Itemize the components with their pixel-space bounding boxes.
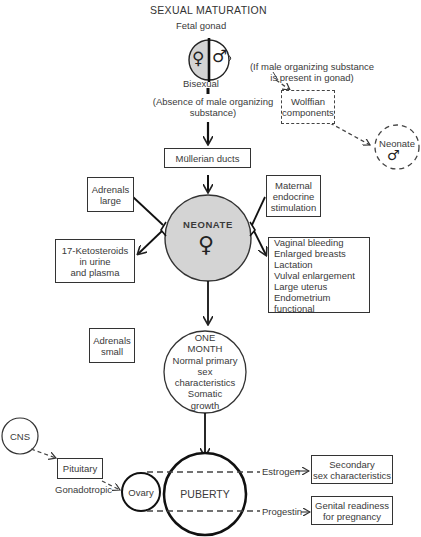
ketosteroids-box: 17-Ketosteroids in urine and plasma bbox=[55, 239, 135, 283]
male-symbol-icon: ♂ bbox=[212, 46, 227, 66]
ovary-label: Ovary bbox=[123, 487, 159, 498]
line-maternal bbox=[252, 197, 265, 225]
female-symbol-icon: ♀ bbox=[192, 48, 204, 68]
progestin-label: Progestin bbox=[262, 506, 302, 517]
puberty-label: PUBERTY bbox=[170, 489, 240, 500]
effect-item: Vulval enlargement bbox=[274, 270, 355, 281]
mullerian-ducts-box: Müllerian ducts bbox=[164, 148, 251, 168]
female-neonate-symbol-icon: ♀ bbox=[198, 232, 214, 257]
cns-label: CNS bbox=[4, 431, 36, 442]
effect-item: Large uterus bbox=[274, 281, 327, 292]
arrow-to-ketosteroids bbox=[138, 231, 162, 254]
fetal-gonad-label: Fetal gonad bbox=[176, 20, 226, 31]
arrow-to-neonate-effects bbox=[254, 231, 266, 255]
secondary-sex-box: Secondary sex characteristics bbox=[311, 455, 393, 484]
arrow-to-male-neonate bbox=[330, 123, 370, 145]
effect-item: Lactation bbox=[274, 259, 313, 270]
arrow-to-pituitary bbox=[31, 449, 56, 458]
estrogen-label: Estrogen bbox=[262, 466, 300, 477]
effect-item: Enlarged breasts bbox=[274, 248, 346, 259]
wolffian-components-box: Wolffian components bbox=[281, 90, 335, 124]
pituitary-box: Pituitary bbox=[57, 458, 103, 479]
neonate-effects-box: Vaginal bleeding Enlarged breasts Lactat… bbox=[268, 237, 370, 313]
genital-readiness-box: Genital readiness for pregnancy bbox=[311, 496, 393, 525]
bisexual-label: Bisexual bbox=[183, 78, 219, 89]
one-month-text: ONE MONTH Normal primary sex characteris… bbox=[165, 332, 245, 411]
adrenals-small-box: Adrenals small bbox=[89, 328, 135, 363]
diagram-title: SEXUAL MATURATION bbox=[150, 4, 267, 16]
effect-item: Endometrium functional bbox=[274, 292, 369, 314]
male-neonate-symbol-icon: ♂ bbox=[387, 147, 400, 163]
maternal-stimulation-box: Maternal endocrine stimulation bbox=[266, 175, 321, 217]
line-adrenals-large bbox=[133, 197, 163, 225]
effect-item: Vaginal bleeding bbox=[274, 237, 344, 248]
female-condition-text: (Absence of male organizing substance) bbox=[138, 96, 288, 118]
gonadotropic-label: Gonadotropic bbox=[55, 484, 112, 495]
neonate-label: NEONATE bbox=[170, 219, 246, 230]
male-condition-text: (If male organizing substance is present… bbox=[236, 61, 388, 83]
adrenals-large-box: Adrenals large bbox=[87, 177, 134, 212]
